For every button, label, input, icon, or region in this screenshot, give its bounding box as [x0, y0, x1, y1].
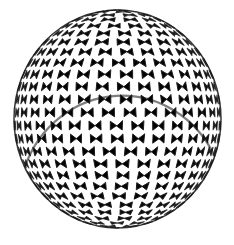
stipple-dot — [107, 110, 108, 111]
stipple-dot — [138, 127, 139, 128]
stipple-dot — [55, 123, 56, 124]
stipple-dot — [135, 24, 136, 25]
stipple-dot — [67, 151, 68, 152]
stipple-dot — [48, 112, 49, 113]
stipple-dot — [179, 187, 180, 188]
stipple-dot — [128, 114, 129, 115]
stipple-dot — [35, 99, 36, 100]
stipple-dot — [120, 194, 121, 195]
stipple-dot — [122, 161, 123, 162]
stipple-dot — [150, 74, 151, 75]
stipple-dot — [108, 114, 109, 115]
stipple-dot — [126, 54, 127, 55]
stipple-dot — [110, 153, 111, 154]
stipple-dot — [159, 136, 160, 137]
stipple-dot — [168, 112, 169, 113]
stipple-dot — [75, 140, 76, 141]
stipple-dot — [64, 73, 65, 74]
stipple-dot — [161, 86, 162, 87]
stipple-dot — [86, 99, 87, 100]
stipple-dot — [164, 85, 165, 86]
stipple-dot — [147, 53, 148, 54]
stipple-dot — [194, 164, 195, 165]
stipple-dot — [107, 151, 108, 152]
stipple-dot — [49, 99, 50, 100]
stipple-dot — [118, 61, 119, 62]
stipple-dot — [196, 88, 197, 89]
stipple-dot — [96, 140, 97, 141]
stipple-dot — [78, 161, 79, 162]
stipple-dot — [158, 123, 159, 124]
stipple-dot — [170, 153, 171, 154]
stipple-dot — [34, 86, 35, 87]
stipple-dot — [117, 141, 118, 142]
stipple-dot — [103, 89, 104, 90]
stipple-dot — [97, 64, 98, 65]
stipple-dot — [168, 100, 169, 101]
stipple-dot — [142, 62, 143, 63]
stipple-dot — [186, 112, 187, 113]
stipple-dot — [141, 164, 142, 165]
stipple-dot — [145, 74, 146, 75]
stipple-dot — [104, 175, 105, 176]
stipple-dot — [104, 86, 105, 87]
stipple-dot — [82, 72, 83, 73]
stipple-dot — [100, 86, 101, 87]
stipple-dot — [142, 87, 143, 88]
stipple-dot — [87, 110, 88, 111]
stipple-dot — [96, 136, 97, 137]
stipple-dot — [153, 112, 154, 113]
stipple-dot — [184, 75, 185, 76]
stipple-dot — [47, 175, 48, 176]
stipple-dot — [150, 153, 151, 154]
stipple-dot — [103, 89, 104, 90]
stipple-dot — [131, 149, 132, 150]
stipple-dot — [102, 43, 103, 44]
stipple-dot — [104, 77, 105, 78]
stipple-dot — [77, 194, 78, 195]
figure-root: Engraving of a hollow spherical colony c… — [0, 0, 234, 245]
stipple-dot — [90, 150, 91, 151]
stipple-dot — [140, 197, 141, 198]
stipple-dot — [128, 109, 129, 110]
stipple-dot — [168, 98, 169, 99]
stipple-dot — [118, 64, 119, 65]
stipple-dot — [22, 98, 23, 99]
stipple-dot — [80, 41, 81, 42]
stipple-dot — [179, 126, 180, 127]
stipple-dot — [159, 197, 160, 198]
stipple-dot — [159, 123, 160, 124]
figure-background — [0, 0, 234, 245]
stipple-dot — [94, 123, 95, 124]
stipple-dot — [161, 184, 162, 185]
stipple-dot — [123, 165, 124, 166]
stipple-dot — [120, 197, 121, 198]
stipple-dot — [99, 164, 100, 165]
stipple-dot — [142, 188, 143, 189]
stipple-dot — [64, 101, 65, 102]
stipple-dot — [125, 72, 126, 73]
stipple-dot — [206, 139, 207, 140]
stipple-dot — [70, 153, 71, 154]
stipple-dot — [106, 99, 107, 100]
stipple-dot — [118, 198, 119, 199]
stipple-dot — [85, 50, 86, 51]
specimen-illustration: Engraving of a hollow spherical colony c… — [0, 0, 234, 245]
stipple-dot — [177, 196, 178, 197]
stipple-dot — [123, 88, 124, 89]
stipple-dot — [59, 138, 60, 139]
stipple-dot — [137, 62, 138, 63]
stipple-dot — [150, 115, 151, 116]
stipple-dot — [114, 139, 115, 140]
stipple-dot — [35, 151, 36, 152]
stipple-dot — [88, 148, 89, 149]
stipple-dot — [163, 203, 164, 204]
stipple-dot — [51, 51, 52, 52]
stipple-dot — [49, 110, 50, 111]
stipple-dot — [77, 64, 78, 65]
stipple-dot — [144, 34, 145, 35]
stipple-dot — [80, 188, 81, 189]
stipple-dot — [123, 173, 124, 174]
stipple-dot — [66, 50, 67, 51]
stipple-dot — [143, 162, 144, 163]
